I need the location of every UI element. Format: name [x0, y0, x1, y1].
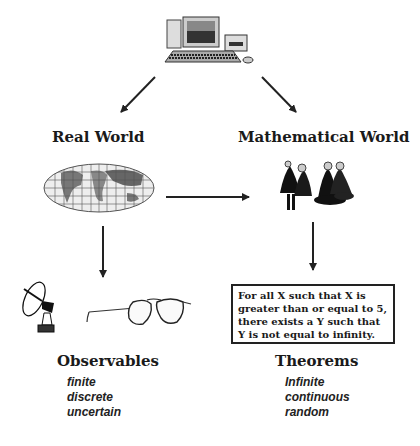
world-map-icon [43, 163, 155, 213]
attribute-continuous: continuous [285, 390, 350, 405]
attribute-uncertain: uncertain [67, 405, 121, 420]
observables-title: Observables [57, 352, 159, 370]
satellite-dish-icon [20, 277, 65, 335]
observables-attributes: finite discrete uncertain [67, 375, 121, 420]
theorem-statement-box: For all X such that X is greater than or… [231, 284, 395, 344]
math-world-title: Mathematical World [238, 128, 409, 146]
attribute-finite: finite [67, 375, 121, 390]
real-world-title: Real World [52, 128, 144, 146]
arrow-to-math-world [262, 77, 296, 112]
theorems-title: Theorems [275, 352, 358, 370]
arrow-to-real-world [121, 77, 155, 112]
eyeglasses-icon [85, 292, 195, 334]
theorem-statement: For all X such that X is greater than or… [238, 290, 387, 340]
attribute-infinite: Infinite [285, 375, 350, 390]
theorems-attributes: Infinite continuous random [285, 375, 350, 420]
mathematicians-group-icon [272, 158, 356, 218]
attribute-discrete: discrete [67, 390, 121, 405]
attribute-random: random [285, 405, 350, 420]
arrows [0, 0, 420, 446]
